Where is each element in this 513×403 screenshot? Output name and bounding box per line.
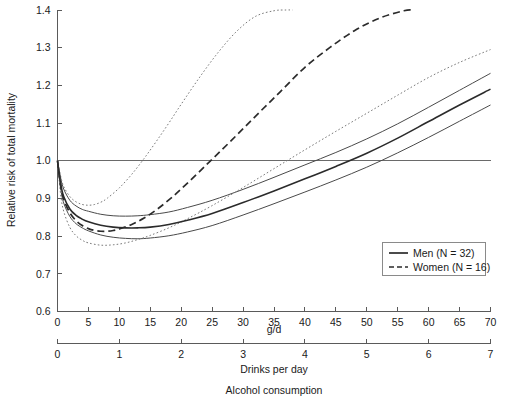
x-tick-label-primary: 40 xyxy=(299,316,311,328)
x-tick-label-primary: 70 xyxy=(485,316,497,328)
x-tick-label-primary: 0 xyxy=(55,316,61,328)
y-tick-label: 0.8 xyxy=(36,230,51,242)
x-tick-label-secondary: 7 xyxy=(488,348,494,360)
y-tick-label: 1.0 xyxy=(36,154,51,166)
y-axis-title: Relative risk of total mortality xyxy=(5,92,17,227)
legend-label-women: Women (N = 16) xyxy=(413,261,490,273)
x-tick-group-secondary: 01234567 xyxy=(55,339,494,360)
chart-svg: 0.60.70.80.91.01.11.21.31.4 051015202530… xyxy=(0,0,513,403)
y-tick-label: 0.7 xyxy=(36,268,51,280)
legend-label-men: Men (N = 32) xyxy=(413,247,475,259)
y-tick-label: 1.4 xyxy=(36,4,51,16)
x-tick-label-primary: 50 xyxy=(361,316,373,328)
x-tick-label-primary: 10 xyxy=(114,316,126,328)
series-curve xyxy=(58,89,491,228)
x-axis-title-overall: Alcohol consumption xyxy=(226,384,323,396)
x-tick-label-secondary: 2 xyxy=(178,348,184,360)
x-tick-label-secondary: 6 xyxy=(426,348,432,360)
y-tick-label: 0.6 xyxy=(36,305,51,317)
x-tick-label-primary: 65 xyxy=(454,316,466,328)
curve-group xyxy=(58,10,491,245)
x-axis-title-primary: g/d xyxy=(267,323,282,335)
x-tick-label-primary: 15 xyxy=(144,316,156,328)
x-axis-title-secondary: Drinks per day xyxy=(240,363,308,375)
x-tick-label-primary: 5 xyxy=(86,316,92,328)
y-tick-label: 0.9 xyxy=(36,192,51,204)
x-tick-label-primary: 55 xyxy=(392,316,404,328)
series-curve xyxy=(58,73,491,216)
y-tick-label: 1.3 xyxy=(36,41,51,53)
x-tick-label-secondary: 4 xyxy=(302,348,308,360)
x-tick-label-secondary: 5 xyxy=(364,348,370,360)
x-tick-label-primary: 25 xyxy=(206,316,218,328)
series-curve xyxy=(58,105,491,239)
y-tick-label: 1.2 xyxy=(36,79,51,91)
x-tick-label-primary: 45 xyxy=(330,316,342,328)
x-tick-label-secondary: 0 xyxy=(55,348,61,360)
x-tick-label-primary: 60 xyxy=(423,316,435,328)
x-tick-label-secondary: 3 xyxy=(240,348,246,360)
series-curve xyxy=(58,10,293,205)
x-tick-label-primary: 20 xyxy=(175,316,187,328)
series-curve xyxy=(58,10,414,231)
y-tick-label: 1.1 xyxy=(36,117,51,129)
alcohol-mortality-chart: 0.60.70.80.91.01.11.21.31.4 051015202530… xyxy=(0,0,513,403)
x-tick-label-secondary: 1 xyxy=(116,348,122,360)
x-tick-label-primary: 30 xyxy=(237,316,249,328)
legend: Men (N = 32) Women (N = 16) xyxy=(383,243,491,276)
